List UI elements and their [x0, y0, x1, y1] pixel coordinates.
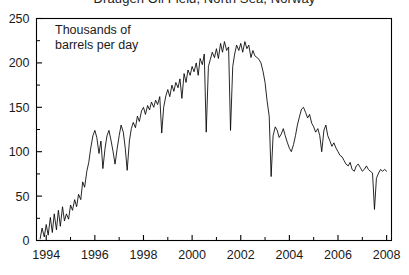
x-tick-label: 1996 [81, 248, 109, 262]
y-tick-label: 0 [23, 234, 30, 248]
series-polyline [40, 42, 386, 239]
y-tick-label: 100 [9, 145, 30, 159]
x-tick-label: 1998 [130, 248, 158, 262]
x-tick-label: 1994 [32, 248, 60, 262]
annotation-line-1: Thousands of [55, 23, 131, 37]
plot-area: 050100150200250 199419961998200020022004… [0, 0, 409, 275]
annotation-line-2: barrels per day [55, 38, 139, 52]
y-tick-label: 250 [9, 12, 30, 26]
x-axis-tick-labels: 19941996199820002002200420062008 [32, 248, 400, 262]
x-tick-label: 2004 [275, 248, 303, 262]
data-series-production [40, 42, 386, 239]
x-tick-label: 2008 [373, 248, 401, 262]
y-axis-tick-labels: 050100150200250 [9, 12, 30, 248]
x-tick-label: 2006 [324, 248, 352, 262]
y-tick-label: 150 [9, 101, 30, 115]
plot-annotation: Thousands of barrels per day [55, 23, 139, 52]
y-tick-label: 200 [9, 56, 30, 70]
y-tick-label: 50 [16, 190, 30, 204]
chart-figure: Draugen Oil Field, North Sea, Norway 050… [0, 0, 409, 275]
x-tick-label: 2000 [178, 248, 206, 262]
x-tick-label: 2002 [227, 248, 255, 262]
